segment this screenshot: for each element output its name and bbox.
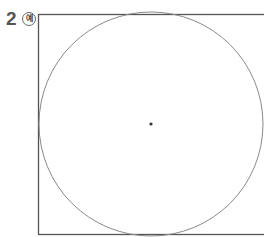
center-point bbox=[149, 122, 152, 125]
figure bbox=[0, 0, 264, 237]
